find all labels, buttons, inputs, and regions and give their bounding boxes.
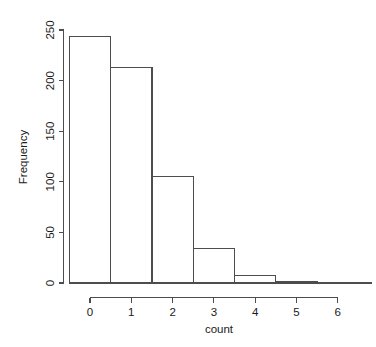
x-tick-label-5: 5 xyxy=(293,306,299,318)
plot-canvas: 0501001502002500123456countFrequency xyxy=(0,0,376,347)
histogram-plot: 0501001502002500123456countFrequency xyxy=(0,0,376,347)
x-tick-label-4: 4 xyxy=(252,306,259,318)
y-tick-label-250: 250 xyxy=(44,20,56,39)
y-tick-label-50: 50 xyxy=(44,226,56,239)
histogram-bar-0 xyxy=(69,36,110,283)
x-tick-label-2: 2 xyxy=(169,306,175,318)
x-axis-title: count xyxy=(205,323,234,335)
x-tick-label-0: 0 xyxy=(87,306,93,318)
y-tick-label-150: 150 xyxy=(44,122,56,141)
histogram-bar-4 xyxy=(235,276,276,283)
x-tick-label-1: 1 xyxy=(128,306,134,318)
histogram-bar-2 xyxy=(152,177,193,283)
x-tick-label-3: 3 xyxy=(211,306,217,318)
histogram-bar-3 xyxy=(193,249,234,283)
y-axis-title: Frequency xyxy=(17,130,29,185)
y-tick-label-200: 200 xyxy=(44,71,56,90)
y-tick-label-0: 0 xyxy=(44,280,56,286)
histogram-bar-1 xyxy=(111,67,152,283)
y-tick-label-100: 100 xyxy=(44,172,56,191)
x-tick-label-6: 6 xyxy=(335,306,341,318)
